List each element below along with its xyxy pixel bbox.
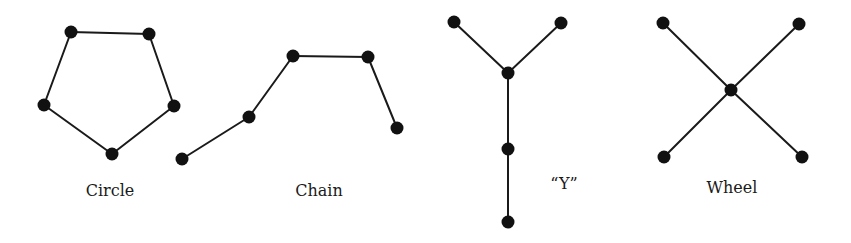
node	[176, 153, 189, 166]
edge	[71, 32, 149, 34]
network-label-y: “Y”	[550, 174, 577, 193]
node	[658, 151, 671, 164]
nodes	[38, 26, 181, 161]
node	[555, 17, 568, 30]
network-label-circle: Circle	[86, 181, 135, 200]
node	[502, 143, 515, 156]
edge	[508, 23, 561, 73]
nodes	[176, 50, 404, 166]
edge	[44, 105, 112, 154]
edge	[249, 56, 293, 117]
edge	[663, 23, 731, 90]
node	[38, 99, 51, 112]
edge	[293, 56, 368, 57]
edge	[368, 57, 397, 128]
node	[391, 122, 404, 135]
network-circle: Circle	[38, 26, 181, 201]
network-label-wheel: Wheel	[707, 178, 758, 197]
node	[362, 51, 375, 64]
network-y: “Y”	[448, 16, 578, 229]
edges	[182, 56, 397, 159]
edges	[454, 22, 561, 222]
edges	[44, 32, 174, 154]
node	[796, 151, 809, 164]
edge	[664, 90, 731, 157]
node	[243, 111, 256, 124]
edge	[44, 32, 71, 105]
node	[143, 28, 156, 41]
node	[502, 216, 515, 229]
node	[725, 84, 738, 97]
network-wheel: Wheel	[657, 17, 809, 198]
node	[502, 67, 515, 80]
network-diagram: Circle Chain “Y” Wheel	[0, 0, 851, 243]
edge	[731, 24, 799, 90]
node	[448, 16, 461, 29]
node	[793, 18, 806, 31]
edge	[182, 117, 249, 159]
edge	[454, 22, 508, 73]
node	[287, 50, 300, 63]
node	[106, 148, 119, 161]
network-label-chain: Chain	[295, 181, 343, 200]
network-chain: Chain	[176, 50, 404, 201]
node	[65, 26, 78, 39]
edge	[149, 34, 174, 106]
edge	[731, 90, 802, 157]
node	[168, 100, 181, 113]
node	[657, 17, 670, 30]
edge	[112, 106, 174, 154]
